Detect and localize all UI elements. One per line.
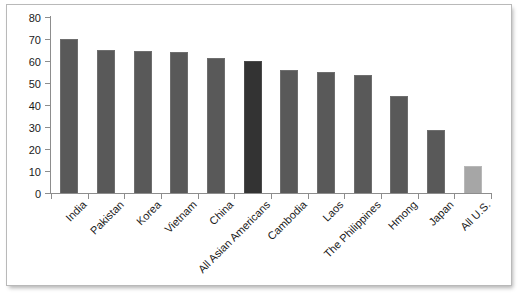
bar-vietnam [170, 52, 188, 193]
y-axis-tick-label: 20 [29, 144, 41, 155]
x-axis-tick-label: Pakistan [88, 199, 126, 237]
x-axis-tick-label: All Asian Americans [196, 199, 272, 275]
bar-cambodia [280, 70, 298, 193]
bar-all-asian-americans [244, 61, 262, 193]
x-axis-tick-label: Korea [134, 199, 163, 228]
x-axis-tick [198, 194, 199, 199]
x-axis-tick [271, 194, 272, 199]
x-axis-tick [454, 194, 455, 199]
bar-the-philippines [354, 75, 372, 193]
y-axis-tick-label: 40 [29, 100, 41, 111]
y-axis-tick-label: 60 [29, 56, 41, 67]
y-axis-tick-label: 10 [29, 166, 41, 177]
x-axis-tick-label: All U.S. [458, 199, 492, 233]
plot-area [51, 17, 491, 193]
x-axis-tick-label: Laos [321, 199, 346, 224]
x-axis-tick-label: Hmong [387, 199, 420, 232]
bar-pakistan [97, 50, 115, 193]
y-axis-tick-label: 0 [35, 188, 41, 199]
x-axis-tick [234, 194, 235, 199]
x-axis-tick [381, 194, 382, 199]
bar-japan [427, 130, 445, 193]
x-axis-tick [491, 194, 492, 199]
y-axis-tick-label: 80 [29, 12, 41, 23]
bar-hmong [390, 96, 408, 193]
bar-all-u-s [464, 166, 482, 194]
y-axis-tick-label: 30 [29, 122, 41, 133]
x-axis-tick [308, 194, 309, 199]
y-axis-tick-label: 50 [29, 78, 41, 89]
x-axis-tick-label: India [64, 199, 89, 224]
x-axis-tick-label: China [207, 199, 235, 227]
x-axis-tick [418, 194, 419, 199]
x-axis-tick [161, 194, 162, 199]
y-axis-tick-label: 70 [29, 34, 41, 45]
bar-china [207, 58, 225, 193]
x-axis-tick [344, 194, 345, 199]
bar-korea [134, 51, 152, 193]
x-axis-tick [88, 194, 89, 199]
x-axis-tick-label: Japan [427, 199, 456, 228]
bar-india [60, 39, 78, 193]
chart-frame: 01020304050607080 IndiaPakistanKoreaViet… [6, 4, 512, 286]
x-axis-tick [124, 194, 125, 199]
x-axis-tick-label: Vietnam [163, 199, 199, 235]
x-axis-tick [51, 194, 52, 199]
bar-laos [317, 72, 335, 193]
